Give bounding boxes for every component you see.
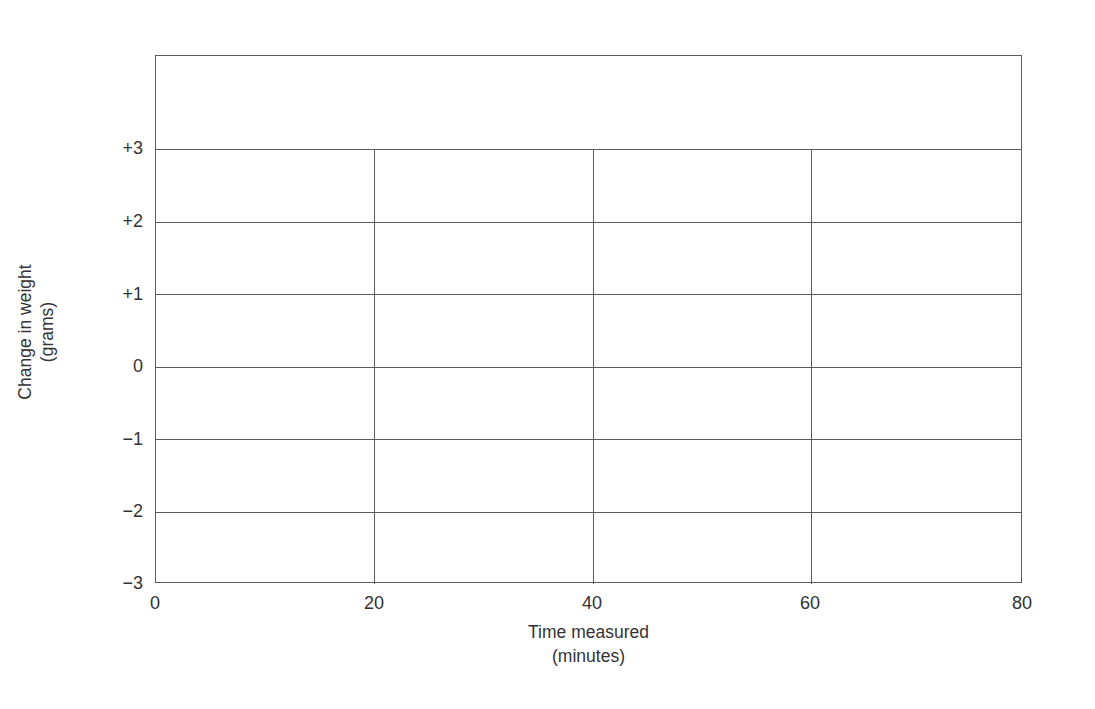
x-axis-title-text: Time measured	[528, 622, 649, 642]
y-tick-label-minus1: −1	[83, 430, 143, 448]
y-tick-label-minus3: −3	[83, 574, 143, 592]
gridline-y-plus3	[156, 149, 1021, 150]
chart-page: Chart 5 Change in Weight with Time +3 +2…	[0, 0, 1095, 709]
x-tick-label-20: 20	[334, 594, 414, 612]
gridline-y-minus1	[156, 439, 1021, 440]
y-tick-label-zero: 0	[83, 357, 143, 375]
x-tick-label-40: 40	[552, 594, 632, 612]
gridline-x-60	[811, 149, 812, 584]
gridline-x-40	[593, 149, 594, 584]
gridline-y-plus1	[156, 294, 1021, 295]
y-axis-title-unit: (grams)	[36, 232, 58, 432]
x-tick-label-0: 0	[115, 594, 195, 612]
y-tick-label-plus3: +3	[83, 139, 143, 157]
plot-area	[155, 55, 1022, 583]
x-axis-title-unit: (minutes)	[155, 644, 1022, 668]
y-axis-title: Change in weight (grams)	[14, 232, 58, 432]
x-axis-title: Time measured (minutes)	[155, 620, 1022, 668]
gridline-x-20	[374, 149, 375, 584]
gridline-y-zero	[156, 367, 1021, 368]
y-tick-label-plus1: +1	[83, 285, 143, 303]
y-tick-label-minus2: −2	[83, 502, 143, 520]
x-tick-label-80: 80	[982, 594, 1062, 612]
x-tick-label-60: 60	[770, 594, 850, 612]
y-tick-label-plus2: +2	[83, 212, 143, 230]
y-axis-title-text: Change in weight	[15, 264, 35, 399]
gridline-y-plus2	[156, 222, 1021, 223]
gridline-y-minus2	[156, 512, 1021, 513]
